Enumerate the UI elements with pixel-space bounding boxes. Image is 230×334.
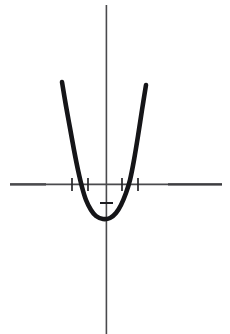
figure-root: Parabola on coordinate axes Upward-openi… — [0, 0, 230, 334]
chart-background — [0, 0, 230, 334]
parabola-graph — [0, 0, 230, 334]
